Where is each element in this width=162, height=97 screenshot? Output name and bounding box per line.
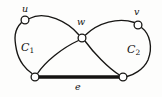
edge-label-e: e bbox=[75, 82, 81, 92]
vertex-label-v: v bbox=[134, 7, 139, 17]
vertex-w bbox=[78, 34, 86, 42]
vertex-b bbox=[119, 73, 127, 81]
region-label-c1-subscript: 1 bbox=[30, 46, 35, 55]
edge-w-v bbox=[86, 20, 135, 35]
region-label-c1: C1 bbox=[21, 42, 34, 54]
vertex-label-u: u bbox=[22, 4, 28, 14]
graph-figure: u w v C1 C2 e bbox=[0, 0, 162, 97]
vertex-label-w: w bbox=[77, 17, 85, 27]
edge-w-b bbox=[85, 41, 120, 75]
edge-u-w bbox=[30, 16, 79, 35]
region-label-c2-base: C bbox=[127, 43, 135, 56]
region-label-c2-subscript: 2 bbox=[136, 48, 141, 57]
vertex-a bbox=[31, 73, 39, 81]
vertex-v bbox=[134, 21, 142, 29]
region-label-c2: C2 bbox=[127, 44, 140, 56]
vertex-u bbox=[21, 16, 29, 24]
region-label-c1-base: C bbox=[21, 41, 29, 54]
edge-a-w bbox=[38, 41, 79, 74]
